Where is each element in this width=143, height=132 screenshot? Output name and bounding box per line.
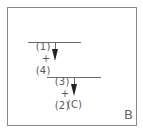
arrow1-head-icon bbox=[52, 49, 58, 61]
step2-operator: + bbox=[61, 88, 70, 99]
step1-operator: + bbox=[42, 53, 51, 64]
arrow2-head-icon bbox=[71, 84, 77, 96]
panel-label: B bbox=[124, 108, 133, 122]
result-label: (C) bbox=[67, 99, 82, 111]
